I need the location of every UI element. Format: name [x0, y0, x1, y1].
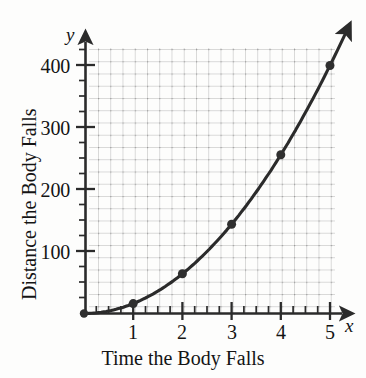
data-point-4: [276, 150, 285, 159]
data-point-2: [178, 269, 187, 278]
y-tick-label-400: 400: [18, 56, 70, 76]
data-point-0: [80, 309, 88, 317]
x-axis-title: Time the Body Falls: [0, 348, 366, 368]
x-tick-label-2: 2: [167, 322, 197, 342]
x-tick-label-3: 3: [217, 322, 247, 342]
y-axis-symbol: y: [66, 25, 74, 44]
data-point-5: [326, 61, 335, 70]
free-fall-figure: 100 200 300 400 1 2 3 4 5 y x Time the B…: [0, 0, 366, 378]
data-point-3: [227, 220, 236, 229]
data-point-1: [129, 299, 138, 308]
x-tick-label-4: 4: [266, 322, 296, 342]
x-tick-label-1: 1: [118, 322, 148, 342]
x-tick-label-5: 5: [315, 322, 345, 342]
x-axis-symbol: x: [345, 316, 353, 335]
y-axis-title: Distance the Body Falls: [19, 108, 39, 300]
plot-gridlines: [89, 48, 335, 313]
